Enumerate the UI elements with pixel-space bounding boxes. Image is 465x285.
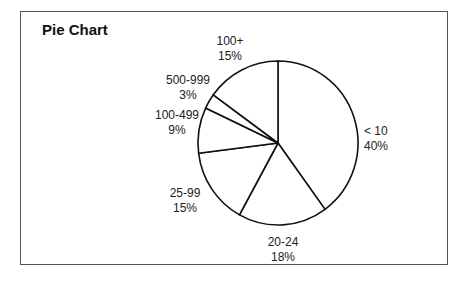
label-name: < 10 xyxy=(364,124,388,139)
label-pct: 15% xyxy=(160,201,210,216)
label-pct: 15% xyxy=(210,49,250,64)
label-name: 100-499 xyxy=(147,108,207,123)
label-pct: 3% xyxy=(158,88,218,103)
label-20-24: 20-24 18% xyxy=(258,235,308,265)
label-name: 25-99 xyxy=(160,186,210,201)
label-name: 500-999 xyxy=(158,73,218,88)
label-pct: 9% xyxy=(147,123,207,138)
label-name: 100+ xyxy=(210,34,250,49)
label-name: 20-24 xyxy=(258,235,308,250)
label-100plus: 100+ 15% xyxy=(210,34,250,64)
label-pct: 40% xyxy=(364,139,388,154)
label-pct: 18% xyxy=(258,250,308,265)
label-25-99: 25-99 15% xyxy=(160,186,210,216)
label-100-499: 100-499 9% xyxy=(147,108,207,138)
label-lt10: < 10 40% xyxy=(364,124,388,154)
label-500-999: 500-999 3% xyxy=(158,73,218,103)
